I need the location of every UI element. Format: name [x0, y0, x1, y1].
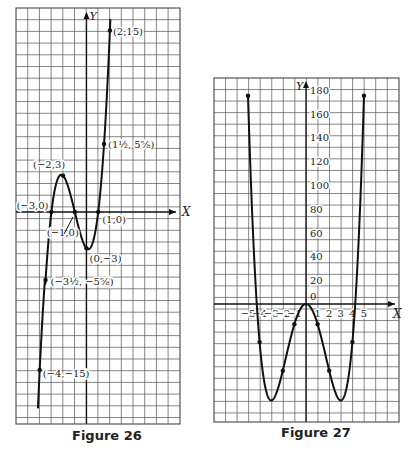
fig26-data-point — [84, 246, 88, 250]
fig26-y-axis-label: Y — [90, 10, 99, 23]
fig26-point-label: (−3½, −5⅝) — [51, 276, 114, 287]
fig27-y-tick-label: 140 — [310, 132, 329, 143]
fig27-x-tick-label: 3 — [338, 308, 344, 319]
fig27-data-point — [350, 340, 354, 344]
figure-27-caption: Figure 27 — [281, 425, 351, 440]
fig27-data-point — [257, 340, 261, 344]
y-axis-arrow-icon — [303, 81, 309, 88]
fig27-y-tick-label: 180 — [310, 85, 329, 96]
fig26-point-label: (1½, 5⅝) — [108, 139, 154, 150]
figure-page: XY(2,15)(1½, 5⅝)(−2,3)(−3,0)(−1,0)(1,0)(… — [0, 0, 414, 459]
fig27-y-tick-label: 160 — [310, 109, 329, 120]
figure-26-caption: Figure 26 — [72, 428, 142, 443]
fig26-x-axis-label: X — [181, 205, 191, 219]
fig26-data-point — [43, 278, 47, 282]
fig26-data-point — [49, 210, 53, 214]
fig26-data-point — [38, 368, 42, 372]
fig27-data-point — [292, 322, 296, 326]
fig26-point-label: (1,0) — [102, 214, 126, 225]
fig27-x-tick-label: 2 — [326, 308, 332, 319]
fig27-x-axis-label: X — [392, 307, 402, 321]
fig26-point-label: (−4,−15) — [43, 368, 90, 379]
fig26-point-label: (0,−3) — [90, 253, 122, 264]
fig27-data-point — [362, 94, 366, 98]
fig27-y-tick-label: 80 — [310, 204, 323, 215]
fig26-point-label: (−2,3) — [33, 159, 65, 170]
fig27-y-tick-label: 20 — [310, 275, 323, 286]
fig26-point-label: (2,15) — [113, 26, 143, 37]
fig27-y-tick-label: 100 — [310, 180, 329, 191]
fig27-data-point — [281, 368, 285, 372]
fig26-data-point — [61, 174, 65, 178]
fig27-origin-label: 0 — [310, 291, 316, 302]
fig27-data-point — [315, 322, 319, 326]
fig26-data-point — [73, 210, 77, 214]
fig27-y-tick-label: 120 — [310, 156, 329, 167]
x-axis-arrow-icon — [169, 209, 176, 215]
figure-26-graph: XY(2,15)(1½, 5⅝)(−2,3)(−3,0)(−1,0)(1,0)(… — [0, 0, 414, 459]
fig27-data-point — [327, 368, 331, 372]
fig27-x-tick-label: 5 — [361, 308, 367, 319]
fig26-data-point — [96, 210, 100, 214]
fig26-point-label: (−3,0) — [16, 200, 48, 211]
fig27-data-point — [246, 94, 250, 98]
fig26-data-point — [108, 28, 112, 32]
fig26-point-label: (−1,0) — [47, 227, 79, 238]
fig27-y-tick-label: 40 — [310, 251, 323, 262]
fig27-y-tick-label: 60 — [310, 228, 323, 239]
fig26-data-point — [102, 142, 106, 146]
